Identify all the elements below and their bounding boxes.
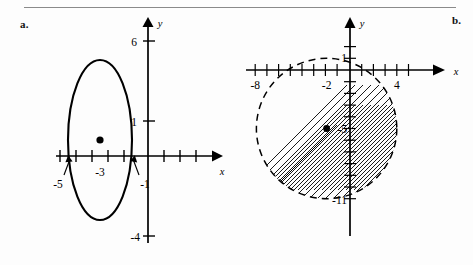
y-tick-label-1-a: 1 (131, 116, 137, 128)
y-axis-a (143, 17, 154, 243)
figure-sheet: a. (0, 0, 473, 265)
x-tick-label-minus2-b: -2 (322, 79, 332, 91)
panel-b: b. (222, 0, 473, 265)
y-ticks-a (143, 41, 155, 236)
y-axis-label-b: y (359, 18, 365, 29)
x-axis-a (56, 151, 223, 162)
center-dot-a (96, 136, 103, 143)
y-tick-label-minus11-b: -11 (332, 194, 347, 206)
y-axis-label-a: y (157, 18, 163, 29)
center-dot-b (323, 125, 330, 132)
y-tick-label-minus5-b: -5 (337, 123, 347, 135)
x-tick-label-minus8-b: -8 (250, 79, 260, 91)
panel-b-plot: -8 -2 4 1 -5 -11 x y (222, 0, 473, 265)
panel-a-plot: -5 -3 -1 6 1 -4 x y (0, 0, 236, 265)
y-tick-label-6-a: 6 (131, 36, 137, 48)
x-axis-label-b: x (453, 66, 459, 77)
x-tick-label-minus1-a: -1 (140, 178, 150, 190)
y-tick-label-minus4-a: -4 (130, 231, 140, 243)
x-tick-label-minus5-a: -5 (53, 178, 63, 190)
y-tick-label-1-b: 1 (341, 52, 347, 64)
panel-a: a. (0, 0, 236, 265)
x-tick-label-minus3-a: -3 (95, 166, 105, 178)
x-tick-label-4-b: 4 (394, 79, 400, 91)
x-axis-b (246, 65, 445, 76)
